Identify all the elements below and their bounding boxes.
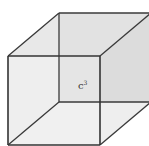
cube-volume-label: c3 <box>78 80 87 91</box>
cropped-caption-fragment: ​ <box>40 0 115 2</box>
cube-illustration <box>0 0 149 146</box>
label-exponent: 3 <box>84 79 88 86</box>
cube-diagram: ​ c3 <box>0 0 149 146</box>
cube-front-face <box>8 56 100 145</box>
